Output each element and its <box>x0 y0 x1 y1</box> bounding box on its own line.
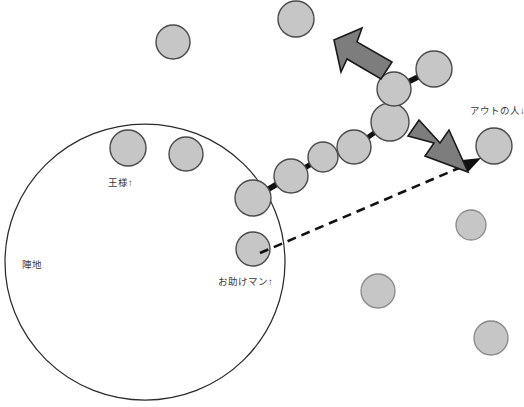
player-helper <box>236 232 270 266</box>
player-top-right <box>278 1 314 37</box>
player-in-territory-b <box>169 137 203 171</box>
player-top-left <box>156 25 190 59</box>
player-bottom-right <box>474 321 508 355</box>
territory-label: 陣地 <box>22 259 42 270</box>
chain-player <box>371 103 409 141</box>
chain-player <box>274 159 308 193</box>
chain-player <box>416 51 452 87</box>
player-bottom-mid <box>361 274 395 308</box>
chain-player <box>235 180 271 216</box>
helper-label: お助けマン↑ <box>218 276 273 287</box>
king-label: 王様↑ <box>108 177 133 188</box>
arrow-up-left-icon <box>334 28 392 79</box>
diagram-canvas: 陣地 王様↑ お助けマン↑ アウトの人↓ <box>0 0 524 407</box>
field-diagram: 陣地 王様↑ お助けマン↑ アウトの人↓ <box>0 0 524 407</box>
player-right-mid <box>456 210 486 240</box>
chain-player <box>308 142 338 172</box>
player-king <box>110 130 146 166</box>
arrow-down-right-icon <box>408 120 468 172</box>
chain-player <box>337 130 371 164</box>
free-players <box>110 1 512 355</box>
out-person-label: アウトの人↓ <box>470 105 524 116</box>
player-out <box>476 128 512 164</box>
